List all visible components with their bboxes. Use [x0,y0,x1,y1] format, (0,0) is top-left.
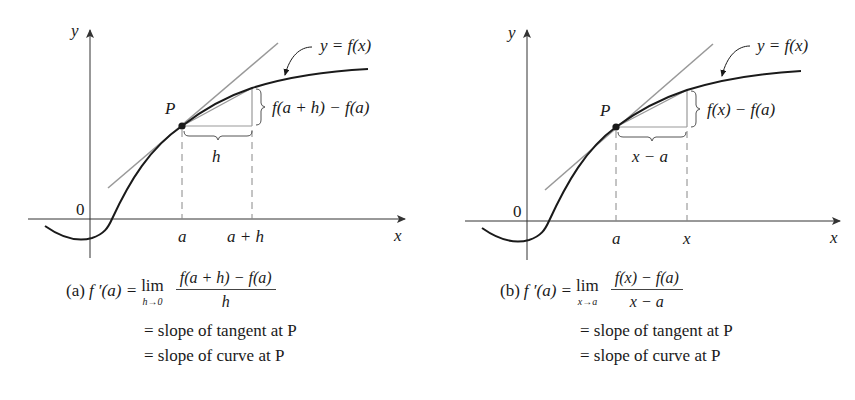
caption-b-line2: = slope of tangent at P [580,322,733,339]
point-p [612,123,619,130]
lim-subscript: x→a [576,297,599,307]
limit: lim h→0 [141,277,164,307]
origin-label: 0 [513,203,522,220]
rise-label: f(x) − f(a) [707,101,775,118]
denominator: h [176,290,276,310]
numerator: f(x) − f(a) [611,270,683,290]
figures-canvas [0,0,855,400]
curve-label-arrow [722,46,750,76]
rise-brace [256,89,265,125]
caption-tag: (b) [500,281,520,300]
caption-a-line3: = slope of curve at P [144,347,284,364]
run-label: x − a [632,148,668,165]
derivative-lhs: f ′(a) = [89,281,137,300]
run-label: h [212,148,221,165]
lim-subscript: h→0 [141,297,164,307]
tick-a-label: a [178,228,187,245]
caption-tag: (a) [66,281,85,300]
y-axis-label: y [71,22,79,39]
figure-b [465,30,840,260]
tick-x-label: x [683,230,691,247]
secant-line [182,88,252,126]
curve-label-arrow [285,47,312,75]
difference-quotient: f(a + h) − f(a) h [176,270,276,310]
limit: lim x→a [576,277,599,307]
y-axis-label: y [508,24,516,41]
denominator: x − a [611,290,683,310]
caption-a-formula: (a) f ′(a) = lim h→0 f(a + h) − f(a) h [66,270,276,310]
rise-brace [691,91,700,127]
x-axis-label: x [394,227,402,244]
curve-label: y = f(x) [320,37,371,54]
origin-label: 0 [76,201,85,218]
secant-line [616,90,687,127]
curve-label: y = f(x) [757,37,808,54]
derivative-lhs: f ′(a) = [524,281,572,300]
point-label: P [165,100,175,117]
point-p [178,122,185,129]
numerator: f(a + h) − f(a) [176,270,276,290]
difference-quotient: f(x) − f(a) x − a [611,270,683,310]
lim-text: lim [141,276,164,295]
tick-a-label: a [612,230,621,247]
function-curve [45,69,368,240]
caption-b-line3: = slope of curve at P [580,347,720,364]
run-brace [618,132,686,141]
run-brace [184,131,252,140]
caption-a-line2: = slope of tangent at P [144,322,297,339]
rise-label: f(a + h) − f(a) [272,99,370,116]
x-axis-label: x [830,229,838,246]
caption-b-formula: (b) f ′(a) = lim x→a f(x) − f(a) x − a [500,270,683,310]
figure-a [28,30,405,258]
lim-text: lim [576,276,599,295]
point-label: P [600,102,610,119]
tick-a-plus-h-label: a + h [227,228,264,245]
